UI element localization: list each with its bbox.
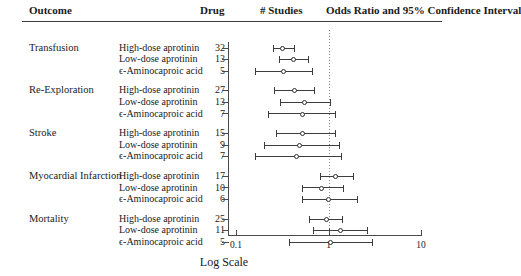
odds-ratio-point — [300, 112, 305, 117]
odds-ratio-point — [302, 100, 307, 105]
confidence-interval-cap — [313, 227, 314, 234]
confidence-interval-cap — [268, 111, 269, 118]
confidence-interval-cap — [276, 130, 277, 137]
confidence-interval-cap — [308, 56, 309, 63]
confidence-interval-cap — [255, 68, 256, 75]
y-tick — [222, 113, 229, 114]
y-tick — [222, 102, 229, 103]
confidence-interval-cap — [302, 185, 303, 192]
y-tick — [222, 176, 229, 177]
confidence-interval-cap — [294, 45, 295, 52]
confidence-interval-cap — [339, 142, 340, 149]
y-tick — [222, 156, 229, 157]
confidence-interval-cap — [357, 196, 358, 203]
confidence-interval-cap — [353, 173, 354, 180]
odds-ratio-point — [294, 154, 299, 159]
confidence-interval-line — [276, 133, 335, 134]
confidence-interval-cap — [314, 87, 315, 94]
confidence-interval-cap — [312, 68, 313, 75]
y-tick — [222, 71, 229, 72]
confidence-interval-cap — [343, 185, 344, 192]
odds-ratio-point — [324, 217, 329, 222]
odds-ratio-point — [280, 46, 285, 51]
y-tick — [222, 187, 229, 188]
y-tick — [222, 242, 229, 243]
confidence-interval-cap — [255, 153, 256, 160]
odds-ratio-point — [333, 174, 338, 179]
y-tick — [222, 230, 229, 231]
odds-ratio-point — [328, 240, 333, 245]
confidence-interval-cap — [367, 227, 368, 234]
confidence-interval-cap — [289, 239, 290, 246]
confidence-interval-cap — [302, 196, 303, 203]
odds-ratio-point — [291, 57, 296, 62]
confidence-interval-cap — [341, 153, 342, 160]
odds-ratio-point — [292, 88, 297, 93]
confidence-interval-cap — [309, 216, 310, 223]
odds-ratio-point — [297, 143, 302, 148]
confidence-interval-cap — [335, 111, 336, 118]
odds-ratio-point — [300, 131, 305, 136]
confidence-interval-cap — [273, 45, 274, 52]
y-tick — [222, 219, 229, 220]
y-tick — [222, 48, 229, 49]
x-tick — [421, 230, 422, 236]
confidence-interval-cap — [330, 99, 331, 106]
confidence-interval-cap — [335, 130, 336, 137]
odds-ratio-point — [326, 197, 331, 202]
y-tick — [222, 90, 229, 91]
x-axis — [228, 235, 421, 236]
confidence-interval-cap — [342, 216, 343, 223]
x-tick-label: 0.1 — [230, 240, 242, 250]
odds-ratio-point — [281, 69, 286, 74]
confidence-interval-cap — [320, 173, 321, 180]
confidence-interval-cap — [264, 142, 265, 149]
confidence-interval-cap — [372, 239, 373, 246]
confidence-interval-cap — [280, 99, 281, 106]
y-tick — [222, 133, 229, 134]
confidence-interval-cap — [274, 87, 275, 94]
x-tick — [236, 230, 237, 236]
y-tick — [222, 59, 229, 60]
axis-title: Log Scale — [0, 255, 448, 270]
confidence-interval-cap — [279, 56, 280, 63]
y-tick — [222, 199, 229, 200]
x-tick-label: 10 — [416, 240, 426, 250]
odds-ratio-point — [338, 228, 343, 233]
y-tick — [222, 145, 229, 146]
